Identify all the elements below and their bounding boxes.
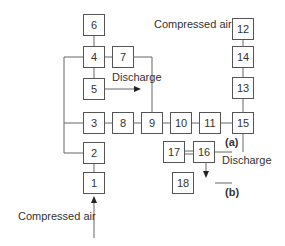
- box-11: 11: [199, 112, 221, 134]
- box-15: 15: [232, 112, 254, 134]
- box-5: 5: [83, 78, 105, 100]
- box-14: 14: [232, 46, 254, 68]
- box-6: 6: [83, 14, 105, 36]
- box-16: 16: [193, 141, 215, 163]
- label-part-b: (b): [225, 186, 239, 198]
- label-compressed-air-bottom: Compressed air: [18, 210, 96, 222]
- label-discharge-left: Discharge: [112, 71, 162, 83]
- box-13: 13: [232, 77, 254, 99]
- box-12: 12: [232, 18, 254, 40]
- box-8: 8: [112, 112, 134, 134]
- box-1: 1: [83, 172, 105, 194]
- label-compressed-air-top: Compressed air: [154, 18, 232, 30]
- box-18: 18: [172, 172, 194, 194]
- label-part-a: (a): [225, 136, 238, 148]
- box-4: 4: [83, 46, 105, 68]
- box-3: 3: [83, 112, 105, 134]
- box-10: 10: [170, 112, 192, 134]
- box-7: 7: [112, 46, 134, 68]
- box-17: 17: [163, 141, 185, 163]
- label-discharge-right: Discharge: [222, 154, 272, 166]
- box-9: 9: [141, 112, 163, 134]
- box-2: 2: [83, 142, 105, 164]
